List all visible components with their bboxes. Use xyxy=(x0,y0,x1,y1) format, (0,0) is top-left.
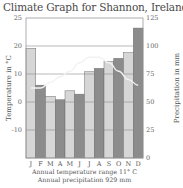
precip-bar xyxy=(133,28,143,158)
month-label: M xyxy=(47,160,54,168)
month-label: F xyxy=(38,160,43,168)
precip-bar xyxy=(65,91,75,158)
right-tick-label: 75 xyxy=(146,70,154,78)
precipitation-bars xyxy=(26,28,143,158)
month-label: D xyxy=(136,160,141,168)
month-label: O xyxy=(116,160,121,168)
left-axis-ticks: 2520100-10 xyxy=(12,14,22,134)
left-tick-label: 25 xyxy=(14,14,22,22)
month-label: A xyxy=(57,160,63,168)
month-label: J xyxy=(77,160,81,168)
right-tick-label: 25 xyxy=(146,126,154,134)
month-label: N xyxy=(126,160,132,168)
right-tick-label: 125 xyxy=(146,14,158,22)
precip-bar xyxy=(26,48,36,158)
precip-bar xyxy=(94,68,104,158)
precip-bar xyxy=(104,62,114,158)
temperature-range-note: Annual temperature range 11° C xyxy=(26,168,143,175)
month-label: J xyxy=(87,160,91,168)
precip-bar xyxy=(85,72,95,158)
precip-bar xyxy=(124,53,134,158)
precip-bar xyxy=(75,94,85,158)
month-label: M xyxy=(67,160,74,168)
right-tick-label: 50 xyxy=(146,98,154,106)
month-label: A xyxy=(96,160,102,168)
precipitation-total-note: Annual precipitation 929 mm xyxy=(26,176,143,183)
month-label: S xyxy=(107,160,111,168)
right-axis-label: Precipitation in mm xyxy=(173,52,181,123)
climate-chart: 2520100-10 1251007550250 JFMAMJJASOND Te… xyxy=(0,0,183,188)
left-tick-label: -10 xyxy=(12,126,22,134)
left-tick-label: 20 xyxy=(14,42,22,50)
right-tick-label: 0 xyxy=(146,154,150,162)
precip-bar xyxy=(36,85,46,158)
right-axis-ticks: 1251007550250 xyxy=(146,14,158,162)
precip-bar xyxy=(55,100,65,158)
left-tick-label: 0 xyxy=(18,98,22,106)
x-axis-labels: JFMAMJJASOND xyxy=(29,160,141,168)
precip-bar xyxy=(46,96,56,158)
month-label: J xyxy=(29,160,33,168)
left-tick-label: 10 xyxy=(14,70,22,78)
right-tick-label: 100 xyxy=(146,42,158,50)
left-axis-label: Temperature in °C xyxy=(5,55,13,121)
